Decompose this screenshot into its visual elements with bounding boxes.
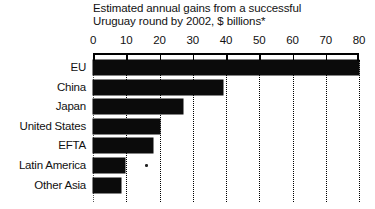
x-tick-mark-30 — [193, 53, 195, 60]
x-tick-label-60: 60 — [286, 34, 298, 47]
bar-japan — [93, 99, 183, 114]
x-tick-mark-60 — [293, 53, 295, 60]
bar-row — [93, 80, 223, 95]
bar-row — [93, 119, 160, 134]
x-tick-mark-0 — [93, 53, 95, 61]
chart-title: Estimated annual gains from a successful… — [93, 2, 365, 27]
category-label-eu: EU — [0, 60, 86, 75]
bar-chart: Estimated annual gains from a successful… — [0, 0, 375, 209]
bar-efta — [93, 138, 153, 153]
bar-other-asia — [93, 178, 121, 193]
bar-row — [93, 158, 125, 173]
bar-china — [93, 80, 223, 95]
bar-united-states — [93, 119, 160, 134]
category-label-latin-america: Latin America — [0, 158, 86, 173]
bar-eu — [93, 60, 359, 75]
x-tick-label-0: 0 — [90, 34, 96, 47]
x-tick-label-50: 50 — [253, 34, 265, 47]
bar-row — [93, 60, 359, 75]
x-tick-label-40: 40 — [220, 34, 232, 47]
bar-row — [93, 99, 183, 114]
bar-row — [93, 178, 121, 193]
x-tick-label-20: 20 — [153, 34, 165, 47]
x-tick-mark-10 — [126, 53, 128, 60]
y-axis-category-labels: EUChinaJapanUnited StatesEFTALatin Ameri… — [0, 60, 86, 202]
category-label-other-asia: Other Asia — [0, 178, 86, 193]
category-label-china: China — [0, 80, 86, 95]
gridline-80 — [359, 60, 360, 202]
bar-series — [93, 60, 359, 202]
x-tick-mark-40 — [226, 53, 228, 60]
x-tick-mark-20 — [160, 53, 162, 60]
x-tick-mark-50 — [259, 53, 261, 60]
category-label-japan: Japan — [0, 99, 86, 114]
x-axis-tick-labels: 01020304050607080 — [0, 34, 375, 48]
x-tick-label-10: 10 — [120, 34, 132, 47]
bar-row — [93, 138, 153, 153]
category-label-efta: EFTA — [0, 138, 86, 153]
x-tick-mark-80 — [357, 53, 359, 61]
x-tick-label-30: 30 — [187, 34, 199, 47]
scan-speck-artifact — [145, 164, 148, 167]
x-tick-label-70: 70 — [320, 34, 332, 47]
x-tick-mark-70 — [326, 53, 328, 60]
bar-latin-america — [93, 158, 125, 173]
category-label-united-states: United States — [0, 119, 86, 134]
x-tick-label-80: 80 — [353, 34, 365, 47]
